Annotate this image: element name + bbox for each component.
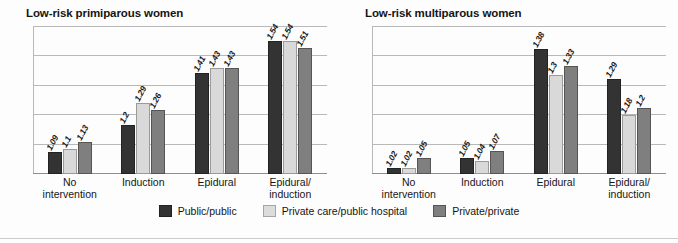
- bar-container: 1.02: [387, 26, 401, 174]
- bar-private-care-public-hospital[interactable]: [283, 41, 297, 174]
- bar-value-label: 1.54: [279, 22, 295, 41]
- bar-public-public[interactable]: [195, 73, 209, 174]
- bar-container: 1.54: [283, 26, 297, 174]
- legend-item-private-care-public-hospital[interactable]: Private care/public hospital: [263, 205, 407, 217]
- bar-container: 1.54: [268, 26, 282, 174]
- category-label-line2: induction: [254, 188, 328, 200]
- panels-container: Low-risk primiparous women 1.09: [0, 0, 678, 200]
- legend-item-private-private[interactable]: Private/private: [433, 205, 519, 217]
- category-label-line1: Induction: [107, 176, 181, 188]
- legend-swatch-icon: [433, 205, 446, 217]
- bottom-divider: [0, 238, 678, 239]
- x-axis-categories: No intervention Induction Epidural Epidu…: [33, 176, 327, 200]
- category-label: Epidural/ induction: [593, 176, 667, 200]
- bar-value-label: 1.41: [191, 54, 207, 73]
- category-label: Induction: [107, 176, 181, 200]
- bar-group: 1.09 1.1 1.13: [33, 26, 107, 174]
- panel-title: Low-risk multiparous women: [365, 7, 522, 19]
- bar-container: 1.43: [225, 26, 239, 174]
- bar-group: 1.41 1.43 1.43: [180, 26, 254, 174]
- bar-public-public[interactable]: [460, 158, 474, 174]
- bar-container: 1.05: [417, 26, 431, 174]
- figure: Low-risk primiparous women 1.09: [0, 0, 678, 243]
- bar-private-private[interactable]: [225, 68, 239, 174]
- bar-container: 1.07: [490, 26, 504, 174]
- bar-public-public[interactable]: [607, 79, 621, 174]
- bar-container: 1.29: [607, 26, 621, 174]
- category-label-line1: No: [33, 176, 107, 188]
- bar-private-private[interactable]: [151, 110, 165, 174]
- plot-area-multiparous: 1.02 1.02 1.05: [372, 26, 666, 174]
- bar-container: 1.38: [534, 26, 548, 174]
- panel-multiparous: Low-risk multiparous women 1.02: [339, 0, 678, 200]
- bar-private-care-public-hospital[interactable]: [210, 68, 224, 174]
- bar-container: 1.1: [63, 26, 77, 174]
- category-label: Epidural: [180, 176, 254, 200]
- bar-value-label: 1.2: [117, 110, 131, 125]
- bar-container: 1.51: [298, 26, 312, 174]
- category-label: Epidural: [519, 176, 593, 200]
- bar-value-label: 1.29: [603, 60, 619, 79]
- bar-container: 1.43: [210, 26, 224, 174]
- bar-container: 1.29: [136, 26, 150, 174]
- category-label-line2: intervention: [33, 188, 107, 200]
- bar-groups: 1.09 1.1 1.13: [33, 26, 327, 174]
- category-label-line1: Epidural: [180, 176, 254, 188]
- legend: Public/public Private care/public hospit…: [0, 205, 678, 217]
- bar-private-private[interactable]: [490, 151, 504, 174]
- bar-public-public[interactable]: [268, 41, 282, 174]
- bar-container: 1.04: [475, 26, 489, 174]
- bar-container: 1.41: [195, 26, 209, 174]
- panel-title: Low-risk primiparous women: [26, 7, 183, 19]
- x-axis-categories: No intervention Induction Epidural Epidu…: [372, 176, 666, 200]
- bar-container: 1.13: [78, 26, 92, 174]
- bar-private-care-public-hospital[interactable]: [475, 161, 489, 174]
- bar-groups: 1.02 1.02 1.05: [372, 26, 666, 174]
- category-label-line1: Epidural/: [254, 176, 328, 188]
- legend-item-public-public[interactable]: Public/public: [159, 205, 237, 217]
- legend-item-label: Public/public: [178, 205, 237, 217]
- bar-group: 1.02 1.02 1.05: [372, 26, 446, 174]
- bar-container: 1.2: [637, 26, 651, 174]
- category-label-line1: Epidural/: [593, 176, 667, 188]
- category-label-line2: induction: [593, 188, 667, 200]
- bar-group: 1.54 1.54 1.51: [254, 26, 328, 174]
- bar-group: 1.05 1.04 1.07: [446, 26, 520, 174]
- bar-container: 1.26: [151, 26, 165, 174]
- bar-value-label: 1.09: [44, 133, 60, 152]
- bar-container: 1.3: [549, 26, 563, 174]
- category-label: Epidural/ induction: [254, 176, 328, 200]
- category-label: No intervention: [372, 176, 446, 200]
- bar-private-private[interactable]: [564, 66, 578, 174]
- bar-private-care-public-hospital[interactable]: [622, 115, 636, 174]
- category-label-line1: Induction: [446, 176, 520, 188]
- bar-group: 1.29 1.18 1.2: [593, 26, 667, 174]
- category-label-line1: Epidural: [519, 176, 593, 188]
- bar-private-private[interactable]: [417, 158, 431, 174]
- bar-container: 1.33: [564, 26, 578, 174]
- bar-private-private[interactable]: [78, 142, 92, 174]
- plot-area-primiparous: 1.09 1.1 1.13: [33, 26, 327, 174]
- bar-group: 1.2 1.29 1.26: [107, 26, 181, 174]
- bar-container: 1.09: [48, 26, 62, 174]
- bar-private-care-public-hospital[interactable]: [549, 75, 563, 174]
- bar-private-care-public-hospital[interactable]: [136, 103, 150, 174]
- legend-swatch-icon: [159, 205, 172, 217]
- panel-primiparous: Low-risk primiparous women 1.09: [0, 0, 339, 200]
- bar-private-care-public-hospital[interactable]: [63, 149, 77, 174]
- bar-private-private[interactable]: [637, 108, 651, 174]
- legend-item-label: Private care/public hospital: [282, 205, 407, 217]
- bar-value-label: 1.54: [264, 22, 280, 41]
- bar-public-public[interactable]: [48, 152, 62, 174]
- bar-private-private[interactable]: [298, 48, 312, 174]
- bar-group: 1.38 1.3 1.33: [519, 26, 593, 174]
- category-label-line1: No: [372, 176, 446, 188]
- category-label: No intervention: [33, 176, 107, 200]
- bar-value-label: 1.02: [383, 149, 399, 168]
- bar-public-public[interactable]: [387, 168, 401, 175]
- legend-swatch-icon: [263, 205, 276, 217]
- bar-public-public[interactable]: [121, 125, 135, 174]
- category-label-line2: intervention: [372, 188, 446, 200]
- bar-container: 1.2: [121, 26, 135, 174]
- bar-private-care-public-hospital[interactable]: [402, 168, 416, 175]
